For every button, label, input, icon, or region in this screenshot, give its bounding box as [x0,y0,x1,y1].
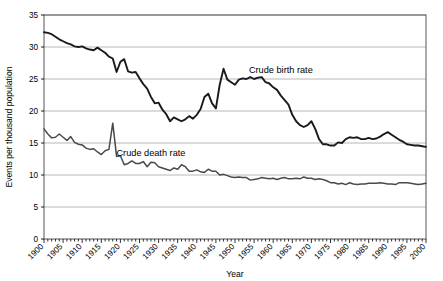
xtick-label-1975: 1975 [313,242,333,262]
xtick-label-1900: 1900 [26,242,46,262]
xtick-label-1950: 1950 [217,242,237,262]
xtick-label-1985: 1985 [351,242,371,262]
ytick-label-10: 10 [29,171,39,180]
data-series [44,32,426,184]
xtick-label-1980: 1980 [332,242,352,262]
xtick-label-1910: 1910 [64,242,84,262]
xtick-label-1930: 1930 [141,242,161,262]
ytick-label-25: 25 [29,75,39,84]
xtick-label-1970: 1970 [294,242,314,262]
xtick-label-1955: 1955 [236,242,256,262]
series-line-crude-death-rate [44,123,426,184]
chart-canvas: 05101520253035 1900190519101915192019251… [0,0,443,281]
series-label-crude-death-rate: Crude death rate [116,148,185,158]
xtick-label-1940: 1940 [179,242,199,262]
y-axis-ticks: 05101520253035 [29,11,44,244]
series-line-crude-birth-rate [44,32,426,147]
xtick-label-1965: 1965 [274,242,294,262]
x-axis-ticks: 1900190519101915192019251930193519401945… [26,239,428,261]
xtick-label-1990: 1990 [370,242,390,262]
ytick-label-20: 20 [29,107,39,116]
xtick-label-1920: 1920 [103,242,123,262]
series-label-crude-birth-rate: Crude birth rate [249,65,313,75]
ytick-label-5: 5 [33,203,38,212]
xtick-label-1905: 1905 [45,242,65,262]
xtick-label-2000: 2000 [408,242,428,262]
ytick-label-15: 15 [29,139,39,148]
x-axis-title: Year [226,269,244,279]
ytick-label-35: 35 [29,11,39,20]
ytick-label-30: 30 [29,43,39,52]
xtick-label-1915: 1915 [83,242,103,262]
plot-frame [44,15,426,239]
y-axis-title: Events per thousand population [4,66,14,187]
xtick-label-1935: 1935 [160,242,180,262]
plot-border [44,15,426,239]
xtick-label-1945: 1945 [198,242,218,262]
xtick-label-1925: 1925 [122,242,142,262]
xtick-label-1960: 1960 [255,242,275,262]
crude-birth-death-rate-chart: 05101520253035 1900190519101915192019251… [0,0,443,281]
xtick-label-1995: 1995 [389,242,409,262]
